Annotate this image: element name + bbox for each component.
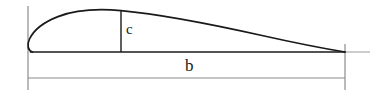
planform-drawing: [0, 0, 378, 96]
chord-label: c: [126, 22, 133, 37]
wing-planform-figure: c b: [0, 0, 378, 96]
span-label: b: [185, 57, 194, 74]
wing-outline-upper-edge: [28, 10, 345, 52]
